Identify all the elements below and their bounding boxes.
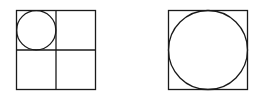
left-figure <box>17 11 96 90</box>
diagram-canvas <box>0 0 261 101</box>
left-small-circle <box>17 11 56 50</box>
right-large-circle <box>169 11 248 90</box>
right-figure <box>169 11 248 90</box>
